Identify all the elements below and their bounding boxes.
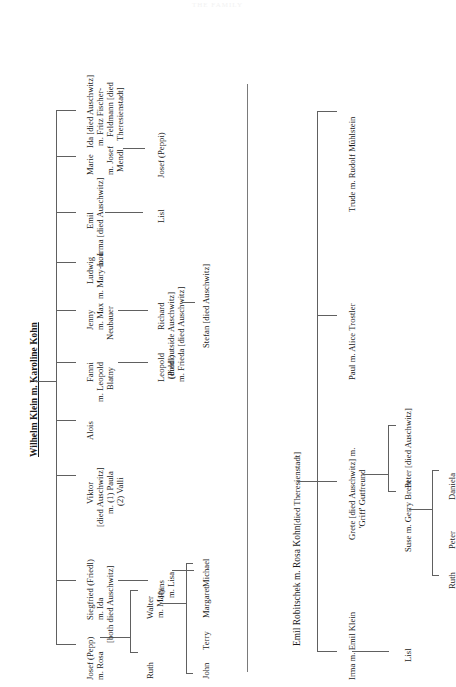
josef-peppi-name: Josef (Peppi) <box>157 132 166 178</box>
peter-died-name: Peter [died Auschwitz] <box>404 408 413 488</box>
grete-desc-tick-peter <box>388 425 396 426</box>
jenny-name: Jenny <box>86 310 95 330</box>
viktor-spouse1: m. (1) Paula <box>106 471 115 514</box>
klein-child-tick-marie <box>56 156 76 157</box>
emil-name: Emil <box>86 212 95 229</box>
josef-desc-tick-ruth <box>130 652 138 653</box>
viktor-name: Viktor <box>86 482 95 504</box>
jenny-desc-connector <box>118 310 148 311</box>
grete-desc-tick-suse <box>388 491 396 492</box>
siegfried-desc-connector <box>118 580 148 581</box>
fanni-name: Fanni <box>86 362 95 382</box>
john-name: John <box>202 663 211 679</box>
walter-desc-tick-john <box>186 673 193 674</box>
page-header-faint: THE FAMILY <box>192 1 243 9</box>
suse-desc-spine <box>432 470 433 575</box>
ida-spouse-note2: Theresienstadt] <box>116 87 125 141</box>
robitschek-children-spine <box>317 111 318 651</box>
leopold-name: Leopold <box>157 353 166 382</box>
marie-spouse: m. Josef <box>106 146 115 175</box>
josef-pepp-name: Josef (Pepp) <box>86 637 95 680</box>
lisl-1-name: Lisl <box>157 209 166 223</box>
klein-child-tick-viktor <box>56 475 76 476</box>
klein-child-tick-jenny <box>56 310 76 311</box>
richard-desc-connector <box>182 302 195 303</box>
ida-name: Ida [died Auschwitz] <box>86 75 95 148</box>
grete-name: Grete [died Auschwitz] m. <box>348 448 357 540</box>
richard-name: Richard <box>157 302 166 330</box>
klein-child-tick-siegfried <box>56 580 76 581</box>
terry-name: Terry <box>202 631 211 650</box>
jenny-spouse: m. Max <box>96 303 105 330</box>
ludwig-name: Ludwig <box>86 257 95 284</box>
klein-child-tick-emil <box>56 212 76 213</box>
klein-root-connector <box>34 381 56 382</box>
siegfried-spouse: m. Ida <box>96 598 105 620</box>
klein-child-tick-fanni <box>56 362 76 363</box>
viktor-spouse2: (2) Valli <box>116 477 125 506</box>
peter-2-name: Peter <box>448 531 456 549</box>
siegfried-name: Siegfried (Friedl) <box>86 559 95 620</box>
viktor-note: [died Auschwitz] <box>96 467 105 527</box>
fanni-spouse-surname: Blatny <box>106 367 115 390</box>
robitschek-family-title-suffix: [died Theresienstadt] <box>292 452 302 526</box>
klein-family-title: Wilhelm Klein m. Karoline Kohn <box>30 322 39 457</box>
ida-spouse: m. Fritz Fischer- <box>96 88 105 146</box>
emil-desc-connector <box>105 212 143 213</box>
paul-name: Paul m. Alice Trostler <box>348 303 357 380</box>
grete-desc-connector <box>363 474 388 475</box>
marie-name: Marie <box>86 154 95 175</box>
klein-children-spine <box>56 110 57 644</box>
siegfried-note: [both died Auschwitz] <box>106 566 115 643</box>
walter-desc-spine <box>186 563 187 673</box>
richard-spouse: m. Frieda [died Auschwitz] <box>177 287 186 382</box>
ruth-2-name: Ruth <box>448 572 456 589</box>
stefan-name: Stefan [died Auschwitz] <box>202 264 211 348</box>
genealogy-chart-page: THE FAMILY Wilhelm Klein m. Karoline Koh… <box>0 0 456 687</box>
walter-desc-tick-margaret <box>186 563 193 564</box>
michael-name: Michael <box>202 558 211 587</box>
robitschek-child-tick-trude <box>317 111 337 112</box>
marie-spouse-surname: Mendl <box>116 149 125 172</box>
suse-desc-connector <box>409 509 432 510</box>
josef-desc-spine <box>130 590 131 652</box>
fanni-desc-connector <box>118 362 148 363</box>
jenny-spouse-surname: Neubauer <box>106 306 115 340</box>
grete-desc-spine <box>388 425 389 491</box>
fanni-spouse: m. Leopold <box>96 362 105 402</box>
hans-spouse: m. Lisa <box>167 572 176 598</box>
walter-desc-connector <box>160 603 186 604</box>
daniela-name: Daniela <box>448 473 456 500</box>
emil-spouse: m. Irma [died Auschwitz] <box>96 178 105 268</box>
josef-pepp-spouse: m. Rosa <box>96 651 105 680</box>
josef-desc-tick-walter <box>130 590 138 591</box>
grete-spouse: 'Griff' Gutfreund <box>358 470 367 528</box>
robitschek-root-connector <box>297 481 317 482</box>
ruth-1-name: Ruth <box>146 662 155 679</box>
robitschek-child-tick-paul <box>317 315 337 316</box>
klein-child-tick-ida <box>56 110 76 111</box>
robitschek-family-title: Emil Robitschek m. Rosa Kohn <box>292 526 302 646</box>
klein-child-tick-josef <box>56 644 76 645</box>
irma-desc-connector <box>352 651 389 652</box>
suse-desc-tick-daniela <box>432 470 439 471</box>
marie-desc-connector <box>123 148 145 149</box>
walter-name: Walter <box>146 596 155 619</box>
suse-desc-tick-ruth <box>432 575 439 576</box>
margaret-name: Margaret <box>202 586 211 618</box>
trude-name: Trude m. Rudolf Mühlstein <box>348 117 357 212</box>
lisl-2-name: Lisl <box>404 648 413 662</box>
hans-desc-connector <box>172 570 194 571</box>
hans-name: Hans <box>157 580 166 598</box>
klein-child-tick-alois <box>56 420 76 421</box>
suse-name: Suse m. Gerry Brent <box>404 480 413 552</box>
richard-note: [died outside Auschwitz] <box>167 292 176 379</box>
alois-name: Alois <box>86 421 95 440</box>
ida-spouse-note1: Feldmann [died <box>106 82 115 137</box>
robitschek-child-tick-grete <box>317 481 337 482</box>
irma-name: Irma m. Emil Klein <box>348 612 357 680</box>
robitschek-child-tick-irma <box>317 651 337 652</box>
klein-child-tick-ludwig <box>56 262 76 263</box>
family-divider <box>247 84 248 672</box>
